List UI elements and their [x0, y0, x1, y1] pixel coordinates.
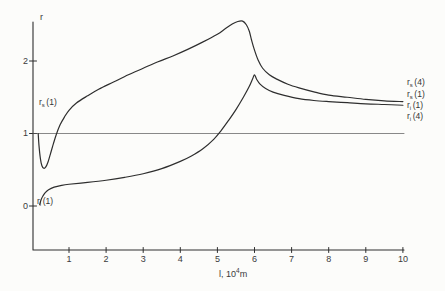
chart-canvas — [0, 0, 445, 291]
rs-curve — [38, 21, 403, 168]
axis-tick-marks — [30, 61, 403, 253]
ri-curve — [40, 75, 403, 205]
axes-lines — [33, 22, 404, 250]
reflection-coefficient-figure: r l, 104m 12345678910012rs(1)ri(1)rs(4)r… — [0, 0, 445, 291]
